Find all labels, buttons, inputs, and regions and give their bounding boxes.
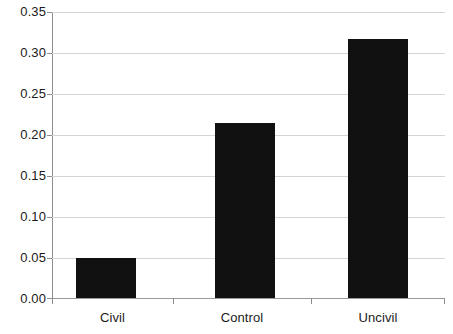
- bar-civil: [76, 258, 136, 298]
- y-axis-tick-label: 0.30: [0, 46, 46, 59]
- x-axis-tick: [311, 298, 312, 304]
- bar-control: [215, 123, 275, 298]
- x-axis-tick: [444, 298, 445, 304]
- y-axis-label-group: 0.20: [0, 128, 46, 141]
- y-axis-label-group: 0.10: [0, 210, 46, 223]
- y-axis-label-group: 0.30: [0, 46, 46, 59]
- x-axis-label-uncivil: Uncivil: [311, 310, 445, 325]
- y-axis-tick-label: 0.15: [0, 169, 46, 182]
- y-axis-tick-label: 0.20: [0, 128, 46, 141]
- y-axis-label-group: 0.00: [0, 292, 46, 305]
- x-axis-tick: [173, 298, 174, 304]
- y-axis-tick-label: 0.00: [0, 292, 46, 305]
- y-axis-label-group: 0.35: [0, 5, 46, 18]
- y-axis-label-group: 0.05: [0, 251, 46, 264]
- x-axis-label-control: Control: [173, 310, 311, 325]
- bar-chart: 0.35 0.30 0.25 0.20 0.15 0.10 0.05 0.00: [0, 0, 453, 334]
- y-axis-tick-label: 0.35: [0, 5, 46, 18]
- y-axis-tick-label: 0.10: [0, 210, 46, 223]
- x-axis-line: [52, 298, 445, 299]
- y-axis-tick-label: 0.05: [0, 251, 46, 264]
- gridline: [52, 12, 445, 13]
- x-axis-tick: [52, 298, 53, 304]
- y-axis-label-group: 0.15: [0, 169, 46, 182]
- plot-area: [52, 12, 445, 298]
- y-axis-tick-label: 0.25: [0, 87, 46, 100]
- bar-uncivil: [348, 39, 408, 298]
- x-axis-label-civil: Civil: [52, 310, 173, 325]
- y-axis-label-group: 0.25: [0, 87, 46, 100]
